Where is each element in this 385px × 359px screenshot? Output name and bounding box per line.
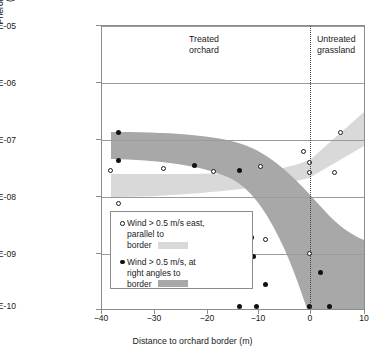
annotation-treated-line1: Treated [189, 34, 219, 45]
y-tick-label-1e-9: 1.00E-09 [0, 249, 16, 259]
data-point-filled [327, 304, 332, 309]
annotation-untreated-grassland: Untreated grassland [317, 34, 356, 56]
x-axis-title: Distance to orchard border (m) [0, 336, 385, 346]
data-point-filled [263, 282, 268, 287]
data-point-open [263, 237, 268, 242]
annotation-untreated-line1: Untreated [317, 34, 356, 45]
y-tick-label-1e-10: 1.00E-10 [0, 301, 16, 311]
x-tick-label-0: 0 [290, 313, 330, 323]
data-point-open [332, 170, 337, 175]
legend-right-angles-line1: Wind > 0.5 m/s, at [127, 257, 196, 268]
data-point-open [211, 169, 216, 174]
x-tick-label-10: 10 [344, 313, 384, 323]
data-point-filled [318, 270, 323, 275]
annotation-untreated-line2: grassland [317, 45, 356, 56]
y-tick-label-1e-8: 1.00E-08 [0, 192, 16, 202]
legend-parallel-line1: Wind > 0.5 m/s east, [127, 218, 205, 229]
legend-text-parallel: Wind > 0.5 m/s east, parallel to border [127, 218, 205, 252]
legend-swatch-right-angles [158, 280, 188, 287]
legend-filled-circle-icon [118, 257, 127, 265]
y-tick-label-1e-6: 1.00E-06 [0, 78, 16, 88]
y-tick-label-1e-5: 1.00E-05 [0, 21, 16, 31]
x-tick-label--10: −10 [238, 313, 278, 323]
x-tick-label--40: −40 [81, 313, 121, 323]
legend-parallel-line3: border [127, 240, 152, 250]
data-point-filled [237, 168, 242, 173]
annotation-treated-line2: orchard [189, 45, 219, 56]
data-point-open [108, 168, 113, 173]
x-tick-label--20: −20 [187, 313, 227, 323]
data-point-filled [116, 158, 121, 163]
y-tick-label-1e-7: 1.00E-07 [0, 135, 16, 145]
chart-figure: Pheromone concentration (relative units)… [0, 0, 385, 359]
data-point-filled [237, 304, 242, 309]
data-point-open [258, 164, 263, 169]
gridline-1e-5 [102, 26, 364, 27]
data-point-open [116, 201, 121, 206]
data-point-open [301, 149, 306, 154]
x-tick-label--30: −30 [134, 313, 174, 323]
legend-parallel-line2: parallel to [127, 229, 205, 240]
data-point-open [338, 130, 343, 135]
legend-open-circle-icon [118, 218, 127, 226]
legend-entry-parallel: Wind > 0.5 m/s east, parallel to border [118, 218, 245, 252]
legend-text-right-angles: Wind > 0.5 m/s, at right angles to borde… [127, 257, 196, 291]
data-point-filled [116, 130, 121, 135]
orchard-border-line [310, 26, 311, 309]
data-point-filled [254, 304, 259, 309]
legend-swatch-parallel [158, 242, 188, 249]
gridline-1e-8 [102, 197, 364, 198]
annotation-treated-orchard: Treated orchard [189, 34, 219, 56]
gridline-1e-6 [102, 83, 364, 84]
data-point-open [161, 166, 166, 171]
legend-entry-right-angles: Wind > 0.5 m/s, at right angles to borde… [118, 257, 245, 291]
gridline-1e-7 [102, 140, 364, 141]
legend-right-angles-line2: right angles to [127, 268, 196, 279]
legend-right-angles-line3: border [127, 279, 152, 289]
legend: Wind > 0.5 m/s east, parallel to border … [110, 211, 253, 289]
data-point-filled [192, 163, 197, 168]
